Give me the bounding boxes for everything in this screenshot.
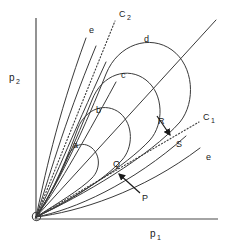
dotted-line-c2 bbox=[36, 21, 115, 217]
label-line-c2: C 2 bbox=[119, 9, 131, 21]
dotted-line-c1 bbox=[36, 122, 199, 217]
label-x-axis-main: p bbox=[150, 228, 156, 239]
label-c2-main: C bbox=[119, 9, 126, 19]
diagram-canvas: a b c d e e P Q R S C 1 C 2 p 1 p 2 bbox=[0, 0, 233, 251]
label-y-axis-main: p bbox=[9, 72, 15, 83]
label-c1-sub: 1 bbox=[211, 117, 215, 124]
label-curve-e-upper: e bbox=[89, 25, 94, 35]
label-curve-b: b bbox=[96, 105, 101, 115]
fan-curve-2 bbox=[36, 46, 96, 217]
label-curve-c: c bbox=[121, 70, 126, 80]
label-y-axis: p 2 bbox=[9, 72, 20, 85]
label-x-axis: p 1 bbox=[150, 228, 161, 241]
label-point-s: S bbox=[176, 139, 182, 149]
label-curve-a: a bbox=[73, 140, 78, 150]
label-line-c1: C 1 bbox=[203, 112, 215, 124]
label-y-axis-sub: 2 bbox=[16, 78, 20, 85]
label-point-p: P bbox=[142, 193, 148, 203]
label-point-q: Q bbox=[113, 159, 120, 169]
fan-curves-upper-group bbox=[36, 38, 116, 217]
phase-diagram-figure: a b c d e e P Q R S C 1 C 2 p 1 p 2 bbox=[0, 0, 233, 251]
label-curve-d: d bbox=[144, 34, 149, 44]
label-x-axis-sub: 1 bbox=[157, 234, 161, 241]
label-c1-main: C bbox=[203, 112, 210, 122]
label-point-r: R bbox=[158, 116, 165, 126]
label-curve-e-lower: e bbox=[206, 152, 211, 162]
label-c2-sub: 2 bbox=[127, 14, 131, 21]
